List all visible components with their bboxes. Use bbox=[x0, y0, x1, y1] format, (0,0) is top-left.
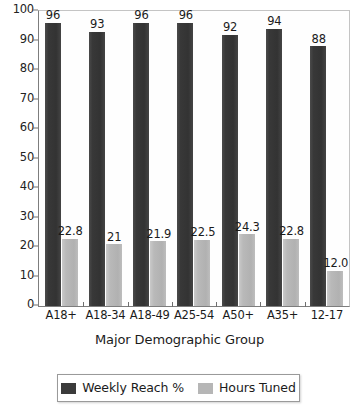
y-tick-mark bbox=[33, 69, 38, 70]
bar: 21.9 bbox=[150, 241, 166, 306]
bar: 92 bbox=[222, 35, 238, 306]
x-axis: A18+A18-34A18-49A25-54A50+A35+12-17 bbox=[39, 310, 349, 328]
bar-value-label: 22.8 bbox=[58, 226, 83, 238]
bar: 24.3 bbox=[239, 234, 255, 306]
y-tick-label: 80 bbox=[20, 63, 34, 75]
bar-value-label: 92 bbox=[223, 22, 237, 34]
y-tick-label: 10 bbox=[20, 270, 34, 282]
y-tick-label: 100 bbox=[13, 4, 34, 16]
bar-value-label: 96 bbox=[134, 10, 148, 22]
y-tick-mark bbox=[33, 98, 38, 99]
bar-value-label: 88 bbox=[312, 34, 326, 46]
bar: 21 bbox=[106, 244, 122, 306]
x-tick-label: 12-17 bbox=[311, 310, 343, 322]
y-tick-mark bbox=[33, 128, 38, 129]
bar-group: 9321 bbox=[83, 11, 127, 306]
x-tick-label: A50+ bbox=[223, 310, 254, 322]
plot-area: 9622.893219621.99622.59224.39422.88812.0 bbox=[39, 11, 349, 306]
bar: 12.0 bbox=[327, 271, 343, 306]
y-tick-label: 40 bbox=[20, 181, 34, 193]
bar-value-label: 96 bbox=[179, 10, 193, 22]
bar-chart: 0102030405060708090100 9622.893219621.99… bbox=[0, 0, 359, 417]
bar-value-label: 93 bbox=[90, 19, 104, 31]
bar-group: 9224.3 bbox=[216, 11, 260, 306]
y-tick-label: 20 bbox=[20, 240, 34, 252]
y-axis: 0102030405060708090100 bbox=[0, 10, 34, 307]
bar: 22.8 bbox=[62, 239, 78, 306]
bar-value-label: 22.8 bbox=[279, 226, 304, 238]
bar-group: 9622.5 bbox=[172, 11, 216, 306]
y-tick-mark bbox=[33, 275, 38, 276]
bar-group: 9621.9 bbox=[128, 11, 172, 306]
bar: 96 bbox=[45, 23, 61, 306]
y-tick-label: 30 bbox=[20, 211, 34, 223]
y-tick-label: 60 bbox=[20, 122, 34, 134]
y-tick-mark bbox=[33, 157, 38, 158]
x-tick-label: A25-54 bbox=[174, 310, 214, 322]
y-tick-mark bbox=[33, 10, 38, 11]
bar: 93 bbox=[89, 32, 105, 306]
bar-value-label: 96 bbox=[46, 10, 60, 22]
y-tick-label: 50 bbox=[20, 152, 34, 164]
y-tick-label: 70 bbox=[20, 93, 34, 105]
bar: 22.8 bbox=[283, 239, 299, 306]
bar: 94 bbox=[266, 29, 282, 306]
bar-value-label: 21.9 bbox=[146, 229, 171, 241]
y-tick-mark bbox=[33, 246, 38, 247]
bar: 22.5 bbox=[194, 240, 210, 306]
x-axis-title: Major Demographic Group bbox=[0, 332, 359, 347]
bar-value-label: 94 bbox=[267, 16, 281, 28]
bar: 96 bbox=[133, 23, 149, 306]
legend-swatch-icon bbox=[198, 383, 213, 394]
bar-value-label: 24.3 bbox=[235, 222, 260, 234]
y-tick-mark bbox=[33, 39, 38, 40]
bar-value-label: 12.0 bbox=[323, 258, 348, 270]
bar: 96 bbox=[177, 23, 193, 306]
y-tick-mark bbox=[33, 216, 38, 217]
x-tick-label: A18-49 bbox=[130, 310, 170, 322]
legend-swatch-icon bbox=[61, 383, 76, 394]
x-tick-label: A18+ bbox=[45, 310, 76, 322]
y-tick-mark bbox=[33, 305, 38, 306]
chart-legend: Weekly Reach %Hours Tuned bbox=[57, 374, 300, 402]
bar-group: 9422.8 bbox=[260, 11, 304, 306]
x-tick-label: A18-34 bbox=[85, 310, 125, 322]
bar-group: 9622.8 bbox=[39, 11, 83, 306]
y-tick-mark bbox=[33, 187, 38, 188]
bar-group: 8812.0 bbox=[305, 11, 349, 306]
bar-value-label: 21 bbox=[107, 232, 121, 244]
legend-label: Hours Tuned bbox=[219, 382, 296, 395]
legend-item: Hours Tuned bbox=[198, 382, 296, 395]
legend-item: Weekly Reach % bbox=[61, 382, 184, 395]
legend-label: Weekly Reach % bbox=[82, 382, 184, 395]
y-tick-label: 90 bbox=[20, 34, 34, 46]
x-tick-label: A35+ bbox=[267, 310, 298, 322]
bar-value-label: 22.5 bbox=[191, 227, 216, 239]
